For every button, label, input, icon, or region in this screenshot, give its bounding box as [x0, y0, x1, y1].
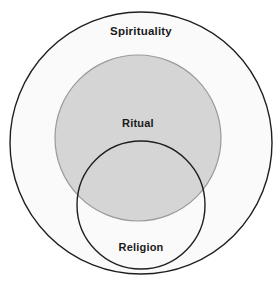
venn-diagram-canvas: Spirituality Ritual Religion: [0, 0, 280, 292]
label-religion: Religion: [119, 241, 164, 253]
circle-ritual: [55, 55, 221, 221]
label-spirituality: Spirituality: [110, 25, 172, 37]
venn-diagram: Spirituality Ritual Religion: [0, 0, 280, 292]
label-ritual: Ritual: [122, 117, 154, 129]
